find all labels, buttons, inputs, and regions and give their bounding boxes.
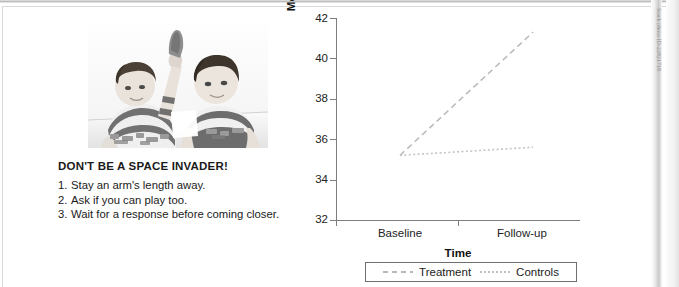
list-item-text: Stay an arm's length away. xyxy=(71,178,290,193)
two-boys-playing-blocks-illustration xyxy=(88,24,268,148)
legend-swatch-dotted-icon xyxy=(480,271,510,273)
series-line-controls xyxy=(400,147,533,155)
poster-step-list: 1. Stay an arm's length away. 2. Ask if … xyxy=(58,178,290,222)
list-item-text: Ask if you can play too. xyxy=(71,193,290,208)
legend-swatch-dashed-icon xyxy=(383,271,413,273)
page-top-edge xyxy=(0,0,679,3)
list-item-text: Wait for a response before coming closer… xyxy=(71,207,290,222)
list-item: 2. Ask if you can play too. xyxy=(58,193,290,208)
chart-legend: Treatment Controls xyxy=(365,262,577,282)
page-left-rule xyxy=(2,6,3,287)
list-item-number: 3. xyxy=(58,207,71,222)
chart-series-lines xyxy=(290,8,590,256)
stock-photo-credit: Stock photo ID-22821718 xyxy=(656,8,662,71)
list-item: 1. Stay an arm's length away. xyxy=(58,178,290,193)
list-item: 3. Wait for a response before coming clo… xyxy=(58,207,290,222)
line-chart: Mean Social Skills Score 42 40 38 36 34 … xyxy=(290,8,590,256)
list-item-number: 1. xyxy=(58,178,71,193)
poster-title: DON'T BE A SPACE INVADER! xyxy=(58,160,288,172)
series-line-treatment xyxy=(400,32,533,155)
poster-photo xyxy=(88,24,268,148)
legend-label-controls: Controls xyxy=(516,266,559,278)
list-item-number: 2. xyxy=(58,193,71,208)
legend-item-treatment: Treatment xyxy=(383,266,471,278)
legend-item-controls: Controls xyxy=(480,266,559,278)
legend-label-treatment: Treatment xyxy=(419,266,471,278)
page-top-rule xyxy=(2,6,666,7)
scanned-page: DON'T BE A SPACE INVADER! 1. Stay an arm… xyxy=(0,0,679,287)
page-right-edge xyxy=(666,0,679,287)
